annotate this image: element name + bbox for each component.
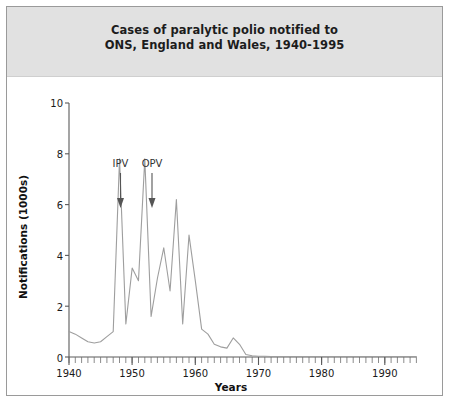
y-tick-label-6: 6 <box>57 200 63 211</box>
y-tick-label-0: 0 <box>57 353 63 364</box>
y-axis-ticks <box>65 103 69 357</box>
annotation-ipv: IPV <box>113 158 129 208</box>
chart-title: Cases of paralytic polio notified to ONS… <box>7 23 442 53</box>
x-tick-label-1980: 1980 <box>309 368 334 379</box>
annotation-ipv-label: IPV <box>113 158 129 169</box>
x-tick-label-1970: 1970 <box>246 368 271 379</box>
figure-container: Cases of paralytic polio notified to ONS… <box>0 0 450 403</box>
chart-title-line-2: ONS, England and Wales, 1940-1995 <box>7 38 442 53</box>
y-tick-label-2: 2 <box>57 302 63 313</box>
x-tick-label-1940: 1940 <box>56 368 81 379</box>
y-tick-label-8: 8 <box>57 149 63 160</box>
y-axis-tick-labels: 10 8 6 4 2 0 <box>50 98 63 364</box>
plot-area-wrapper: Notifications (1000s) 10 8 6 4 2 0 <box>7 77 442 396</box>
figure-frame: Cases of paralytic polio notified to ONS… <box>6 6 443 396</box>
annotation-opv-label: OPV <box>142 158 163 169</box>
x-tick-label-1950: 1950 <box>119 368 144 379</box>
x-tick-label-1990: 1990 <box>372 368 397 379</box>
x-axis-title: Years <box>214 381 247 393</box>
annotation-opv: OPV <box>142 158 163 208</box>
y-tick-label-10: 10 <box>50 98 63 109</box>
y-axis-title: Notifications (1000s) <box>17 175 29 299</box>
annotation-opv-arrow-head <box>149 198 156 208</box>
x-tick-label-1960: 1960 <box>183 368 208 379</box>
x-axis-minor-ticks <box>69 357 416 363</box>
y-tick-label-4: 4 <box>57 251 63 262</box>
chart-title-line-1: Cases of paralytic polio notified to <box>7 23 442 38</box>
polio-line-chart: Notifications (1000s) 10 8 6 4 2 0 <box>7 77 442 396</box>
x-axis-tick-labels: 1940 1950 1960 1970 1980 1990 <box>56 368 397 379</box>
series-line-polio <box>69 159 416 357</box>
